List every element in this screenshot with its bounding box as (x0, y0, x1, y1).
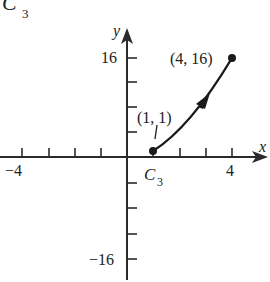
corner-label-sub: 3 (22, 6, 29, 21)
x-axis-label: x (258, 138, 266, 155)
end-point-label: (4, 16) (170, 50, 213, 68)
start-point-leader (155, 125, 157, 139)
y-ticks (127, 58, 137, 259)
start-point-marker (149, 147, 157, 155)
x-tick-label-4: 4 (226, 162, 234, 179)
curve-label-c: C (144, 165, 156, 184)
start-point-label: (1, 1) (137, 109, 172, 127)
corner-label-c: C (2, 0, 17, 15)
curve-c3 (153, 58, 232, 151)
chart-svg: C 3 x y −4 4 16 −16 (0, 0, 270, 282)
curve-label-sub: 3 (157, 175, 163, 189)
y-tick-label-16: 16 (101, 49, 117, 66)
x-tick-label-neg4: −4 (5, 162, 22, 179)
corner-label: C 3 (2, 0, 29, 21)
y-axis-label: y (111, 22, 121, 40)
end-point-marker (228, 54, 236, 62)
y-tick-label-neg16: −16 (89, 251, 114, 268)
